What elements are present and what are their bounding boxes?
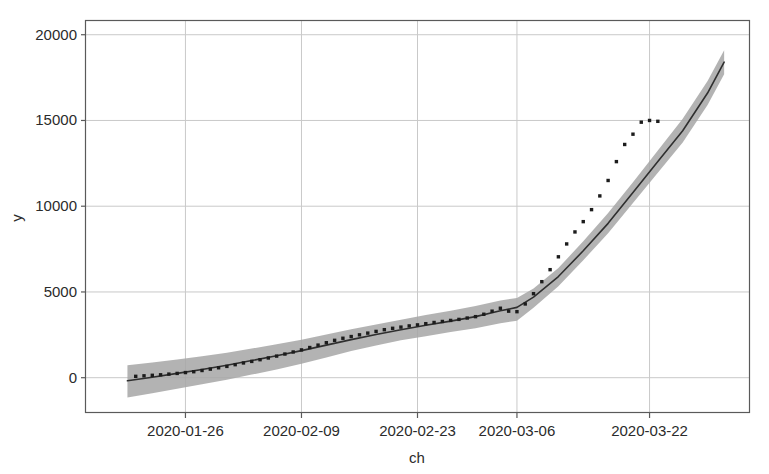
x-tick-label: 2020-03-22 [611, 422, 688, 439]
data-point-marker [573, 230, 576, 233]
data-point-marker [242, 361, 245, 364]
data-point-marker [333, 339, 336, 342]
data-point-marker [408, 324, 411, 327]
data-point-marker [457, 318, 460, 321]
data-point-marker [316, 343, 319, 346]
data-point-marker [648, 119, 651, 122]
data-point-marker [258, 358, 261, 361]
x-tick-label: 2020-01-26 [147, 422, 224, 439]
data-point-marker [582, 220, 585, 223]
y-tick-label: 15000 [35, 111, 77, 128]
y-axis-title: y [8, 214, 25, 222]
data-point-marker [175, 372, 178, 375]
data-point-marker [308, 346, 311, 349]
data-point-marker [209, 367, 212, 370]
data-point-marker [267, 356, 270, 359]
gridlines [86, 21, 749, 412]
data-point-marker [515, 310, 518, 313]
data-point-marker [325, 341, 328, 344]
data-point-marker [374, 330, 377, 333]
data-point-marker [391, 327, 394, 330]
data-point-marker [540, 280, 543, 283]
chart-svg: 05000100001500020000 2020-01-262020-02-0… [0, 0, 769, 474]
data-point-marker [557, 255, 560, 258]
x-tick-label: 2020-02-09 [263, 422, 340, 439]
y-tick-label: 20000 [35, 26, 77, 43]
data-point-marker [631, 132, 634, 135]
data-point-marker [200, 369, 203, 372]
y-tick-label: 10000 [35, 197, 77, 214]
data-point-marker [300, 348, 303, 351]
data-point-marker [466, 316, 469, 319]
data-point-marker [275, 354, 278, 357]
data-point-marker [225, 365, 228, 368]
data-point-marker [233, 363, 236, 366]
data-point-marker [350, 335, 353, 338]
data-point-marker [606, 179, 609, 182]
data-point-marker [532, 292, 535, 295]
data-point-marker [598, 194, 601, 197]
data-point-marker [441, 320, 444, 323]
data-point-marker [250, 360, 253, 363]
data-point-marker [291, 350, 294, 353]
data-point-marker [283, 352, 286, 355]
data-point-marker [416, 323, 419, 326]
data-point-marker [424, 322, 427, 325]
x-tick-label: 2020-02-23 [379, 422, 456, 439]
data-point-marker [358, 333, 361, 336]
data-point-marker [217, 366, 220, 369]
confidence-band [127, 50, 724, 397]
chart-container: 05000100001500020000 2020-01-262020-02-0… [0, 0, 769, 474]
data-point-marker [142, 374, 145, 377]
data-point-marker [151, 374, 154, 377]
y-tick-label: 0 [69, 369, 77, 386]
y-tick-label: 5000 [44, 283, 77, 300]
data-point-marker [490, 309, 493, 312]
data-point-marker [366, 331, 369, 334]
data-point-marker [565, 242, 568, 245]
x-axis-ticks: 2020-01-262020-02-092020-02-232020-03-06… [147, 412, 688, 439]
data-point-marker [548, 268, 551, 271]
y-axis-ticks: 05000100001500020000 [35, 26, 86, 386]
data-point-marker [640, 120, 643, 123]
data-point-marker [449, 319, 452, 322]
data-point-marker [184, 371, 187, 374]
data-point-marker [167, 372, 170, 375]
confidence-band-path [127, 50, 724, 397]
data-point-marker [192, 370, 195, 373]
x-axis-title: ch [409, 449, 425, 466]
data-point-marker [399, 325, 402, 328]
data-point-marker [623, 143, 626, 146]
x-tick-label: 2020-03-06 [479, 422, 556, 439]
data-point-marker [656, 120, 659, 123]
data-point-marker [615, 160, 618, 163]
data-point-marker [524, 302, 527, 305]
data-point-marker [507, 309, 510, 312]
data-point-marker [432, 321, 435, 324]
data-point-marker [383, 328, 386, 331]
data-point-marker [590, 208, 593, 211]
data-point-marker [341, 337, 344, 340]
data-point-marker [134, 375, 137, 378]
data-point-marker [474, 315, 477, 318]
data-point-marker [159, 373, 162, 376]
data-point-marker [499, 307, 502, 310]
data-point-marker [482, 313, 485, 316]
